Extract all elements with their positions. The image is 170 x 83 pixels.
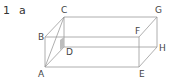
vertex-label-e: E <box>139 69 145 79</box>
vertex-label-c: C <box>61 5 67 15</box>
edge-GF <box>139 17 157 37</box>
vertex-label-f: F <box>135 26 140 36</box>
vertex-label-a: A <box>38 69 45 79</box>
rectangular-prism-diagram: C B D A F G H E <box>0 0 170 83</box>
vertex-label-g: G <box>155 5 162 15</box>
vertex-label-b: B <box>38 32 44 42</box>
edge-BC <box>45 17 64 37</box>
edge-HE <box>139 47 157 67</box>
edge-AD <box>45 47 64 67</box>
vertex-label-h: H <box>159 43 166 53</box>
vertex-labels: C B D A F G H E <box>38 5 166 79</box>
vertex-label-d: D <box>66 47 73 57</box>
